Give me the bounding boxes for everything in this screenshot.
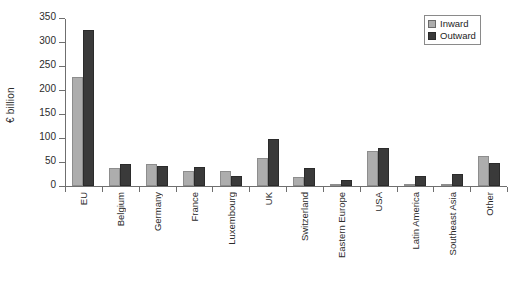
y-axis-tick: 200 bbox=[59, 90, 65, 91]
x-axis-label: Eastern Europe bbox=[336, 192, 347, 258]
bar-group bbox=[145, 164, 169, 186]
bar-inward bbox=[330, 184, 341, 186]
bar-group bbox=[219, 171, 243, 186]
bar-group bbox=[292, 168, 316, 186]
bar-inward bbox=[367, 151, 378, 186]
inward-swatch-icon bbox=[428, 20, 436, 28]
y-axis-tick-label: 150 bbox=[39, 107, 56, 118]
bar-group bbox=[477, 156, 501, 186]
y-axis-tick-label: 250 bbox=[39, 59, 56, 70]
bar-outward bbox=[415, 176, 426, 186]
bar-outward bbox=[120, 164, 131, 186]
x-axis-label: Switzerland bbox=[299, 192, 310, 241]
x-axis-label: Latin America bbox=[410, 192, 421, 250]
bar-group bbox=[366, 148, 390, 186]
bar-group bbox=[71, 30, 95, 186]
x-axis-label: Other bbox=[484, 192, 495, 216]
bar-inward bbox=[404, 184, 415, 186]
x-axis-labels: EUBelgiumGermanyFranceLuxembourgUKSwitze… bbox=[65, 192, 507, 282]
bar-inward bbox=[441, 184, 452, 186]
y-axis-tick-label: 50 bbox=[45, 155, 56, 166]
y-axis-tick-label: 350 bbox=[39, 11, 56, 22]
y-axis-tick: 300 bbox=[59, 42, 65, 43]
legend-item-outward: Outward bbox=[428, 30, 476, 42]
bar-outward bbox=[157, 166, 168, 186]
x-axis-label: France bbox=[189, 192, 200, 222]
x-axis-label: EU bbox=[78, 192, 89, 205]
legend-label-outward: Outward bbox=[440, 30, 476, 42]
bar-outward bbox=[489, 163, 500, 186]
x-axis-tick bbox=[507, 187, 508, 192]
bar-outward bbox=[194, 167, 205, 186]
bar-inward bbox=[257, 158, 268, 186]
bar-group bbox=[440, 174, 464, 186]
bar-outward bbox=[268, 139, 279, 186]
bar-chart: € billion 050100150200250300350 EUBelgiu… bbox=[0, 0, 522, 284]
x-axis-label: Belgium bbox=[115, 192, 126, 226]
bar-inward bbox=[293, 177, 304, 186]
y-axis-tick-label: 0 bbox=[50, 179, 56, 190]
bar-outward bbox=[83, 30, 94, 186]
y-axis-tick: 250 bbox=[59, 66, 65, 67]
x-axis-label: Luxembourg bbox=[226, 192, 237, 245]
bar-inward bbox=[146, 164, 157, 186]
y-axis-tick-label: 200 bbox=[39, 83, 56, 94]
y-axis-tick-label: 100 bbox=[39, 131, 56, 142]
bar-inward bbox=[478, 156, 489, 186]
legend-label-inward: Inward bbox=[440, 18, 469, 30]
bar-group bbox=[256, 139, 280, 186]
x-axis-label: Southeast Asia bbox=[447, 192, 458, 255]
bar-inward bbox=[183, 171, 194, 186]
bar-group bbox=[329, 180, 353, 186]
bar-inward bbox=[72, 77, 83, 186]
bar-group bbox=[403, 176, 427, 186]
y-axis-tick: 150 bbox=[59, 114, 65, 115]
bar-outward bbox=[378, 148, 389, 186]
y-axis-tick: 350 bbox=[59, 18, 65, 19]
x-axis-label: UK bbox=[263, 192, 274, 205]
bar-group bbox=[108, 164, 132, 186]
y-axis-tick: 50 bbox=[59, 162, 65, 163]
y-axis-tick: 100 bbox=[59, 138, 65, 139]
outward-swatch-icon bbox=[428, 32, 436, 40]
y-axis-line bbox=[65, 19, 66, 188]
bar-inward bbox=[109, 168, 120, 186]
y-axis-tick-label: 300 bbox=[39, 35, 56, 46]
bar-outward bbox=[304, 168, 315, 186]
y-axis-title: € billion bbox=[2, 60, 18, 150]
legend-item-inward: Inward bbox=[428, 18, 476, 30]
bar-group bbox=[182, 167, 206, 186]
chart-legend: Inward Outward bbox=[424, 15, 481, 45]
x-axis-label: Germany bbox=[152, 192, 163, 231]
bar-outward bbox=[231, 176, 242, 186]
bar-outward bbox=[452, 174, 463, 186]
bar-outward bbox=[341, 180, 352, 186]
bar-inward bbox=[220, 171, 231, 186]
x-axis-label: USA bbox=[373, 192, 384, 212]
